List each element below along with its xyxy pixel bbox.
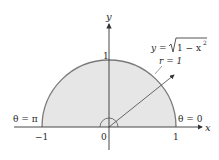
tick-y-one: 1 <box>103 51 109 61</box>
y-axis-label: y <box>105 11 112 22</box>
theta-pi-label: θ = π <box>13 114 38 124</box>
equation-lhs: y = <box>150 43 167 53</box>
x-axis-label: x <box>205 122 211 133</box>
radius-label-leader <box>155 66 162 74</box>
equation-exponent: 2 <box>203 39 207 46</box>
tick-x-one: 1 <box>173 132 179 142</box>
radius-label: r = 1 <box>159 56 182 66</box>
curve-equation: y = 1 − x 2 <box>150 38 207 53</box>
theta-zero-label: θ = 0 <box>178 114 203 124</box>
semicircle-diagram: y x 1 −1 0 1 θ = π θ = 0 y = 1 − x 2 r =… <box>0 0 219 160</box>
tick-x-neg-one: −1 <box>35 132 48 142</box>
tick-origin: 0 <box>101 132 107 142</box>
equation-radicand: 1 − x <box>177 43 201 53</box>
